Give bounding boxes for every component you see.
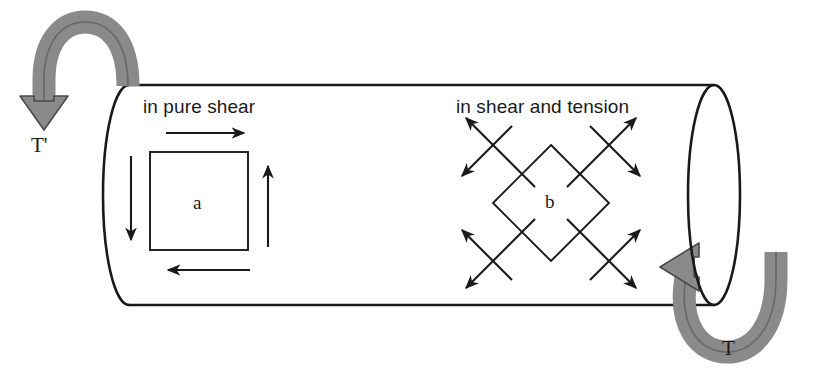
label-in-shear-and-tension: in shear and tension xyxy=(456,96,629,118)
element-b-tl-tension-arrow xyxy=(466,118,535,187)
label-element-b: b xyxy=(545,191,555,213)
element-b-bl-shear-arrow xyxy=(462,230,512,280)
label-torque-t: T xyxy=(722,336,735,361)
diagram-canvas xyxy=(0,0,830,375)
torque-arrow-right xyxy=(660,243,776,352)
element-b-bottom-left-arrow-pair xyxy=(462,219,535,288)
label-torque-t-prime: T' xyxy=(31,133,48,158)
element-b-tr-shear-arrow xyxy=(590,126,640,176)
torsion-diagram-figure: in pure shear in shear and tension T' T … xyxy=(0,0,830,375)
shaft-left-end-arc xyxy=(103,85,129,305)
label-element-a: a xyxy=(193,192,201,214)
element-b-top-right-arrow-pair xyxy=(567,118,640,187)
element-b-top-left-arrow-pair xyxy=(462,118,535,187)
element-b-br-shear-arrow xyxy=(590,230,640,280)
element-b-bottom-right-arrow-pair xyxy=(567,219,640,288)
shaft-right-end-ellipse xyxy=(688,85,740,305)
element-b-tl-shear-arrow xyxy=(462,126,512,176)
element-b-br-tension-arrow xyxy=(567,219,636,288)
element-b-tr-tension-arrow xyxy=(567,118,636,187)
torque-left-arrowhead xyxy=(20,96,68,130)
label-in-pure-shear: in pure shear xyxy=(143,96,255,118)
element-b-bl-tension-arrow xyxy=(466,219,535,288)
